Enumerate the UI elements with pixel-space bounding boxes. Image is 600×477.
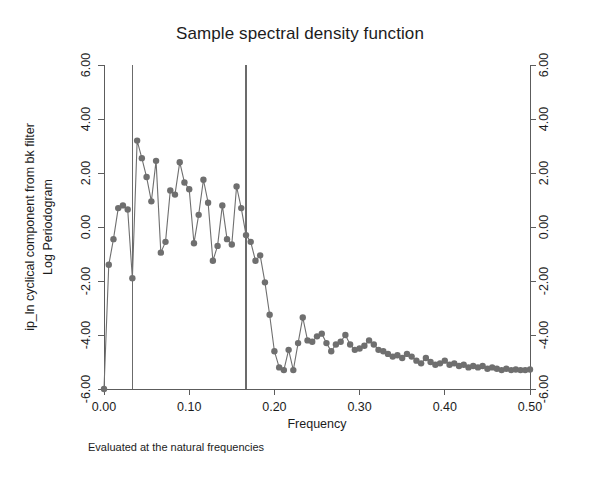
right-axis-tick-labels: 6.004.002.000.00-2.00-4.00-6.00 [537,53,551,403]
x-tick-label: 0.50 [518,400,542,414]
x-tick-label: 0.00 [92,400,116,414]
x-axis-title: Frequency [287,417,347,431]
data-point [195,212,201,218]
data-point [271,348,277,354]
data-point [319,330,325,336]
x-tick-label: 0.10 [177,400,201,414]
data-point [300,314,306,320]
data-point [285,347,291,353]
data-point [205,200,211,206]
data-point [110,236,116,242]
right-axis-ticks [530,65,536,389]
series-markers [101,137,533,392]
data-point [219,202,225,208]
y-tick-label: 0.00 [79,215,93,239]
data-point [266,312,272,318]
left-axis-tick-labels: 6.004.002.000.00-2.00-4.00-6.00 [79,53,93,403]
chart-note: Evaluated at the natural frequencies [88,441,265,453]
data-point [210,258,216,264]
data-point [527,366,533,372]
series-line [104,141,530,389]
data-point [191,240,197,246]
x-axis-tick-labels: 0.000.100.200.300.400.50 [92,400,542,414]
chart-figure: Sample spectral density function 6.004.0… [0,0,600,477]
data-point [238,205,244,211]
data-point [129,275,135,281]
data-point [134,137,140,143]
data-point [143,174,149,180]
y-tick-label: -4.00 [79,321,93,350]
data-point [328,348,334,354]
data-point [281,367,287,373]
data-point [106,262,112,268]
data-point [361,343,367,349]
spectral-density-plot: 6.004.002.000.00-2.00-4.00-6.00 6.004.00… [0,0,600,477]
data-point [153,158,159,164]
y-tick-label: -2.00 [79,267,93,296]
x-tick-label: 0.40 [433,400,457,414]
data-point [172,191,178,197]
data-point [139,155,145,161]
data-point [200,177,206,183]
y-tick-label-right: -2.00 [537,267,551,296]
y-tick-label-right: -6.00 [537,375,551,404]
data-point [342,332,348,338]
data-point [148,198,154,204]
data-point [262,279,268,285]
y-axis-title-secondary: Log Periodogram [41,179,55,275]
data-point [257,252,263,258]
y-tick-label-right: 6.00 [537,53,551,77]
data-point [290,367,296,373]
y-axis-title-primary: ip_ln cyclical component from bk filter [23,123,37,331]
y-tick-label: 4.00 [79,107,93,131]
data-point [101,386,107,392]
data-point [309,339,315,345]
data-point [124,206,130,212]
plot-frame [104,65,530,389]
data-point [371,341,377,347]
data-point [158,249,164,255]
data-point [243,232,249,238]
y-tick-label: 6.00 [79,53,93,77]
data-point [181,179,187,185]
y-tick-label-right: -4.00 [537,321,551,350]
data-point [347,341,353,347]
y-tick-label: -6.00 [79,375,93,404]
data-point [214,243,220,249]
bottom-axis-ticks [104,389,530,395]
y-tick-label: 2.00 [79,161,93,185]
data-point [233,183,239,189]
y-tick-label-right: 4.00 [537,107,551,131]
data-point [295,340,301,346]
x-tick-label: 0.30 [347,400,371,414]
reference-lines [132,65,246,389]
data-series [101,137,533,392]
data-point [252,258,258,264]
y-tick-label-right: 0.00 [537,215,551,239]
data-point [186,186,192,192]
data-point [248,239,254,245]
data-point [229,241,235,247]
data-point [337,339,343,345]
x-tick-label: 0.20 [262,400,286,414]
y-tick-label-right: 2.00 [537,161,551,185]
data-point [224,236,230,242]
data-point [162,239,168,245]
left-axis-ticks [98,65,104,389]
data-point [177,159,183,165]
data-point [323,340,329,346]
data-point [418,360,424,366]
